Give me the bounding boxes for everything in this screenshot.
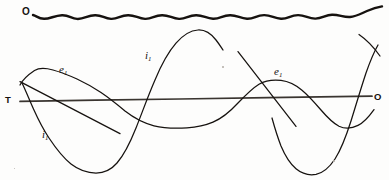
scan-speck (222, 66, 224, 68)
origin-mark-top: O (22, 7, 30, 17)
waveform-plot (0, 0, 389, 180)
oscillogram-figure: O T O e1 i1 i1 e1 (0, 0, 389, 180)
curve-label-i1-lower: i1 (42, 129, 48, 141)
curve-label-e1-left: e1 (59, 64, 67, 76)
curve-label-e1-right-subscript: 1 (279, 71, 282, 78)
axis-label-t: T (5, 95, 11, 105)
curve-label-e1-left-subscript: 1 (64, 69, 67, 76)
scan-speck (333, 160, 335, 162)
time-axis-baseline (20, 96, 372, 101)
curve-label-i1-lower-subscript: 1 (45, 134, 48, 141)
short-arc-upper-right-path (359, 35, 380, 57)
curve-label-e1-right: e1 (274, 66, 282, 78)
secant-line-right-path (238, 52, 296, 127)
curve-label-i1-upper: i1 (145, 50, 151, 62)
ripple-trace-path (33, 6, 382, 19)
curve-label-i1-upper-subscript: 1 (148, 55, 151, 62)
axis-label-o: O (374, 92, 381, 102)
i1-current-curve-second-lobe-path (272, 45, 378, 175)
secant-line-left-path (20, 82, 120, 134)
